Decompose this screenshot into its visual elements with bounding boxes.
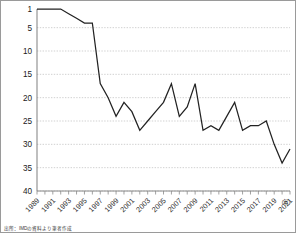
line-chart-svg: 1510152025303540 19891991199319951997199… xyxy=(1,1,296,233)
y-tick-label: 15 xyxy=(23,70,33,79)
x-tick-label: 2015 xyxy=(229,196,247,214)
y-axis-tick-labels: 1510152025303540 xyxy=(23,5,33,196)
data-series-line xyxy=(37,9,290,163)
x-tick-label: 2005 xyxy=(150,196,168,214)
y-tick-label: 25 xyxy=(23,117,33,126)
y-tick-label: 1 xyxy=(27,5,32,14)
x-tick-label: 2007 xyxy=(166,196,184,214)
x-tick-label: 2019 xyxy=(261,196,279,214)
x-tick-label: 2001 xyxy=(118,196,136,214)
x-tick-label: 2009 xyxy=(182,196,200,214)
x-tick-label: 1993 xyxy=(55,196,73,214)
x-tick-label: 1997 xyxy=(87,196,105,214)
y-tick-label: 30 xyxy=(23,140,33,149)
y-tick-label: 40 xyxy=(23,187,33,196)
y-tick-label: 20 xyxy=(23,94,33,103)
x-tick-label: 1999 xyxy=(102,196,120,214)
source-caption: 出所：IMDの資料より筆者作成 xyxy=(4,225,72,231)
x-tick-label: 1989 xyxy=(23,196,41,214)
x-tick-label: 2011 xyxy=(198,196,216,214)
x-tick-label: 2017 xyxy=(245,196,263,214)
y-tick-label: 10 xyxy=(23,47,33,56)
x-tick-label: 1995 xyxy=(71,196,89,214)
x-tick-label: 1991 xyxy=(39,196,57,214)
y-tick-label: 35 xyxy=(23,164,33,173)
chart-figure: 1510152025303540 19891991199319951997199… xyxy=(0,0,296,233)
x-axis-unit-label: (年) xyxy=(282,198,291,206)
x-tick-label: 2013 xyxy=(213,196,231,214)
chart-plot-area: 1510152025303540 19891991199319951997199… xyxy=(1,1,296,233)
y-tick-label: 5 xyxy=(27,24,32,33)
x-axis-tick-labels: 1989199119931995199719992001200320052007… xyxy=(23,196,294,214)
gridlines-group xyxy=(37,28,290,191)
x-tick-label: 2003 xyxy=(134,196,152,214)
